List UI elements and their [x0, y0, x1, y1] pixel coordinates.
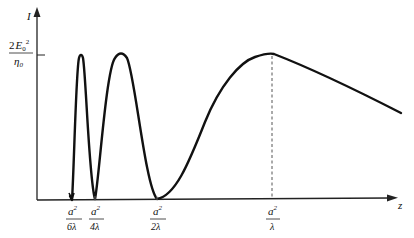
- svg-text:2E02: 2E02: [9, 38, 30, 53]
- intensity-diagram: I z 2E02 η0 a2 6λ a2 4λ a2 2λ a2 λ: [0, 0, 414, 238]
- x4-sup: 2: [274, 204, 278, 212]
- y-label-denominator-sub: 0: [19, 61, 23, 69]
- y-tick-label: 2E02 η0: [9, 38, 33, 69]
- x-axis: [37, 198, 390, 200]
- x3-sup: 2: [159, 204, 163, 212]
- y-label-sup: 2: [26, 38, 30, 46]
- x-tick-label-2: a2 4λ: [89, 204, 104, 232]
- x-tick-label-1: a2 6λ: [66, 204, 82, 232]
- intensity-curve: [70, 54, 401, 201]
- x3-den: 2λ: [151, 221, 161, 232]
- x1-sup: 2: [74, 204, 78, 212]
- svg-text:a2: a2: [68, 204, 78, 217]
- x4-den: λ: [269, 221, 275, 232]
- svg-text:a2: a2: [153, 204, 163, 217]
- x1-den: 6λ: [67, 221, 77, 232]
- x-tick-label-4: a2 λ: [266, 204, 280, 232]
- axes: [34, 7, 399, 202]
- x-axis-arrow-icon: [387, 195, 398, 202]
- y-axis-arrow-icon: [34, 7, 41, 17]
- svg-text:a2: a2: [91, 204, 101, 217]
- y-label-sub: 0: [22, 45, 26, 53]
- y-label-coef: 2: [9, 39, 15, 51]
- x-axis-label: z: [397, 199, 403, 211]
- y-axis-label: I: [26, 10, 32, 22]
- svg-text:η0: η0: [14, 55, 23, 69]
- x-tick-label-3: a2 2λ: [150, 204, 166, 232]
- svg-text:a2: a2: [268, 204, 278, 217]
- x2-den: 4λ: [90, 221, 100, 232]
- x2-sup: 2: [97, 204, 101, 212]
